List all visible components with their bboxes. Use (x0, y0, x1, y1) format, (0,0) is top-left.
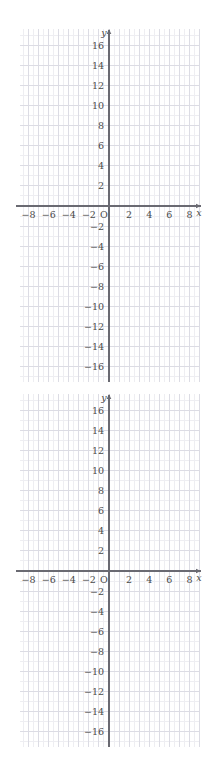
y-tick-label: −14 (84, 341, 104, 352)
x-tick-label: 2 (126, 574, 132, 585)
x-tick-label: −6 (42, 574, 56, 585)
y-tick-label: 16 (92, 405, 104, 416)
y-tick-label: 2 (98, 180, 104, 191)
y-axis-label: y (100, 27, 107, 38)
origin-label: O (100, 574, 108, 585)
x-tick-label: 6 (166, 574, 172, 585)
y-tick-label: −8 (90, 281, 104, 292)
y-tick-label: −14 (84, 706, 104, 717)
y-tick-label: 6 (98, 140, 104, 151)
y-tick-label: −2 (90, 221, 104, 232)
x-tick-label: 6 (166, 209, 172, 220)
origin-label: O (100, 209, 108, 220)
y-tick-label: 10 (92, 100, 104, 111)
x-tick-label: −2 (82, 574, 96, 585)
y-tick-label: −2 (90, 586, 104, 597)
y-tick-label: −6 (90, 261, 104, 272)
y-tick-label: 4 (98, 160, 104, 171)
y-tick-label: −16 (84, 361, 104, 372)
y-tick-label: 12 (92, 445, 104, 456)
y-tick-label: 6 (98, 505, 104, 516)
y-tick-label: 14 (92, 60, 104, 71)
x-tick-label: −8 (22, 209, 36, 220)
y-tick-label: 2 (98, 545, 104, 556)
x-tick-label: −4 (62, 574, 76, 585)
y-tick-label: 14 (92, 425, 104, 436)
coordinate-grid-2: −8−6−4−22468161412108642−2−4−6−8−10−12−1… (0, 390, 209, 755)
y-tick-label: 4 (98, 525, 104, 536)
y-tick-label: −12 (84, 686, 104, 697)
y-tick-label: −10 (84, 666, 104, 677)
y-tick-label: −8 (90, 646, 104, 657)
y-tick-label: 8 (98, 485, 104, 496)
y-axis-label: y (100, 392, 107, 403)
coordinate-grid-1: −8−6−4−22468161412108642−2−4−6−8−10−12−1… (0, 25, 209, 390)
y-tick-label: −12 (84, 321, 104, 332)
x-tick-label: 8 (186, 574, 192, 585)
y-tick-label: 16 (92, 40, 104, 51)
y-tick-label: 8 (98, 120, 104, 131)
y-tick-label: −6 (90, 626, 104, 637)
worksheet-page: −8−6−4−22468161412108642−2−4−6−8−10−12−1… (0, 0, 209, 765)
x-tick-label: 4 (146, 574, 152, 585)
y-axis-arrow (107, 394, 112, 399)
y-tick-label: −16 (84, 726, 104, 737)
x-tick-label: −4 (62, 209, 76, 220)
x-tick-label: −8 (22, 574, 36, 585)
y-tick-label: −4 (90, 606, 104, 617)
x-tick-label: 8 (186, 209, 192, 220)
x-tick-label: −2 (82, 209, 96, 220)
x-tick-label: 2 (126, 209, 132, 220)
x-tick-label: −6 (42, 209, 56, 220)
y-axis-arrow (107, 29, 112, 34)
x-axis-label: x (196, 572, 202, 583)
y-tick-label: 12 (92, 80, 104, 91)
y-tick-label: −10 (84, 301, 104, 312)
x-axis-label: x (196, 207, 202, 218)
y-tick-label: 10 (92, 465, 104, 476)
y-tick-label: −4 (90, 241, 104, 252)
x-tick-label: 4 (146, 209, 152, 220)
